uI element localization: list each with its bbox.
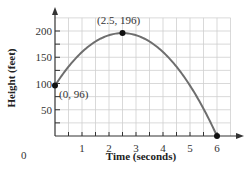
- x-axis-arrow-icon: [236, 133, 244, 139]
- grid-lines: [55, 18, 231, 136]
- x-tick-label: 5: [187, 142, 193, 154]
- axes: [52, 7, 244, 139]
- data-point-marker: [214, 133, 220, 139]
- projectile-height-chart: 12345650100150200 0 (0, 96) (2.5, 196) T…: [0, 0, 247, 169]
- x-tick-label: 6: [214, 142, 220, 154]
- y-axis-title: Height (feet): [5, 48, 18, 107]
- start-point-label: (0, 96): [59, 88, 89, 101]
- y-tick-label: 150: [36, 51, 53, 63]
- y-axis-arrow-icon: [52, 7, 58, 15]
- y-tick-label: 50: [41, 104, 53, 116]
- x-tick-label: 1: [79, 142, 85, 154]
- origin-label: 0: [21, 149, 27, 161]
- vertex-point-label: (2.5, 196): [97, 14, 140, 27]
- y-tick-label: 100: [36, 78, 53, 90]
- y-tick-label: 200: [36, 25, 53, 37]
- data-point-marker: [120, 30, 126, 36]
- data-point-marker: [52, 83, 58, 89]
- x-axis-title: Time (seconds): [106, 150, 177, 163]
